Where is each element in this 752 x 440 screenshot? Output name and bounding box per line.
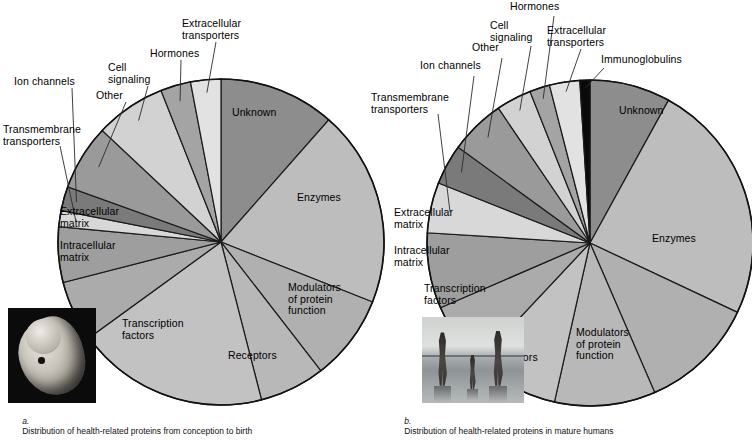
callout-label-hormones-a: Hormones <box>150 48 199 60</box>
beach-reflection-adult-left <box>434 386 450 402</box>
callout-label-cell-signaling-a: Cell signaling <box>108 62 150 85</box>
slice-label-intracellular-b: Intracellular matrix <box>394 245 450 268</box>
callout-label-other-b: Other <box>472 42 499 54</box>
slice-label-enzymes-b: Enzymes <box>652 233 696 245</box>
callout-label-extracellular-transporters-b: Extracellular transporters <box>547 25 606 48</box>
slice-label-receptors-a: Receptors <box>228 350 277 362</box>
slice-label-extracellular-b: Extracellular matrix <box>394 207 453 230</box>
beach-figure-child-center <box>467 355 478 389</box>
slice-label-modulators-a: Modulators of protein function <box>288 282 341 317</box>
beach-figure-adult-left <box>434 332 450 385</box>
slice-label-modulators-b: Modulators of protein function <box>576 327 629 362</box>
callout-label-ion-channels-a: Ion channels <box>14 76 75 88</box>
slice-label-extracellular-a: Extracellular matrix <box>60 206 119 229</box>
caption-a-letter: a. <box>22 416 29 426</box>
slice-label-intracellular-a: Intracellular matrix <box>60 240 116 263</box>
callout-label-cell-signaling-b: Cell signaling <box>490 20 532 43</box>
caption-a-text: Distribution of health-related proteins … <box>22 426 252 436</box>
beach-reflection-child-center <box>467 389 478 399</box>
callout-label-immunoglobulins-b: Immunoglobulins <box>601 54 682 66</box>
caption-b: b. Distribution of health-related protei… <box>390 406 613 440</box>
callout-label-ion-channels-b: Ion channels <box>420 60 481 72</box>
caption-b-text: Distribution of health-related proteins … <box>404 426 613 436</box>
slice-label-transcription-b: Transcription factors <box>424 283 486 306</box>
beach-figure-adult-right <box>489 331 506 386</box>
slice-label-enzymes-a: Enzymes <box>297 192 341 204</box>
pie-chart-panel-a: Unknown Enzymes Modulators of protein fu… <box>0 0 376 415</box>
callout-label-hormones-b: Hormones <box>510 1 559 13</box>
pie-chart-panel-b: Unknown Enzymes Modulators of protein fu… <box>376 0 752 415</box>
callout-label-transmembrane-a: Transmembrane transporters <box>3 124 81 147</box>
family-on-beach-photo <box>422 317 524 403</box>
caption-b-letter: b. <box>404 416 411 426</box>
embryo-head <box>26 319 61 353</box>
callout-label-transmembrane-b: Transmembrane transporters <box>371 92 449 115</box>
caption-a: a. Distribution of health-related protei… <box>8 406 252 440</box>
human-embryo-photo <box>8 308 96 403</box>
slice-label-unknown-a: Unknown <box>232 107 276 119</box>
embryo-eye <box>38 357 45 364</box>
slice-label-unknown-b: Unknown <box>619 105 663 117</box>
callout-label-other-a: Other <box>96 90 123 102</box>
callout-label-extracellular-transporters-a: Extracellular transporters <box>182 18 241 41</box>
beach-reflection-adult-right <box>489 386 506 403</box>
slice-label-transcription-a: Transcription factors <box>122 318 184 341</box>
